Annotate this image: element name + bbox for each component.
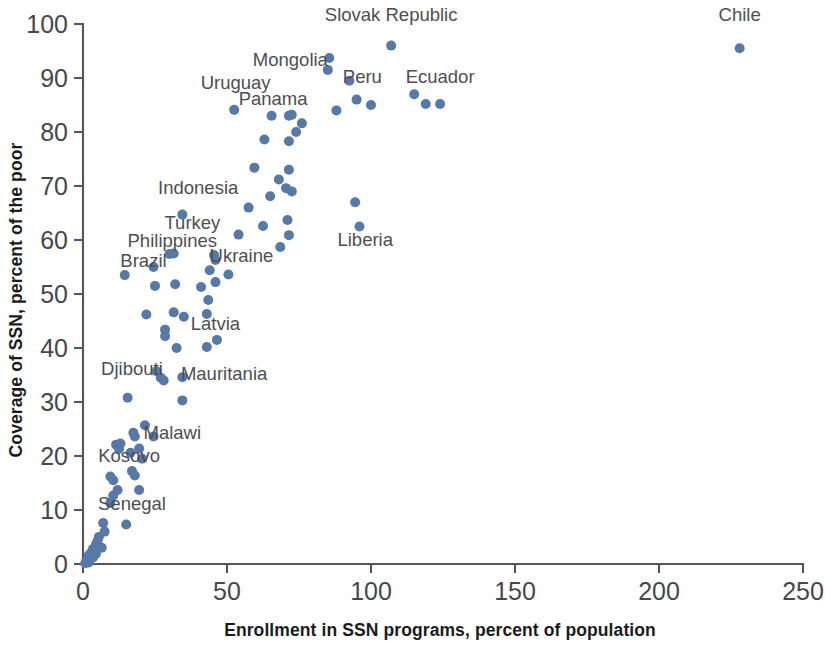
scatter-point <box>282 215 292 225</box>
point-label: Brazil <box>120 250 166 271</box>
x-tick-label: 0 <box>76 577 90 605</box>
scatter-point <box>274 175 284 185</box>
y-axis-title: Coverage of SSN, percent of the poor <box>6 143 26 458</box>
y-tick-label: 10 <box>40 496 68 524</box>
point-label: Philippines <box>128 230 217 251</box>
scatter-point <box>98 518 108 528</box>
y-tick-label: 50 <box>40 280 68 308</box>
x-tick-label: 250 <box>782 577 824 605</box>
scatter-point <box>735 43 745 53</box>
scatter-point <box>141 310 151 320</box>
point-label: Djibouti <box>101 358 163 379</box>
scatter-point <box>435 99 445 109</box>
scatter-point <box>366 100 376 110</box>
x-axis-title: Enrollment in SSN programs, percent of p… <box>224 620 656 640</box>
scatter-point <box>352 95 362 105</box>
y-tick-label: 100 <box>26 10 68 38</box>
scatter-point <box>121 520 131 530</box>
point-label: Kosovo <box>98 445 160 466</box>
point-label: Chile <box>719 4 761 25</box>
y-tick-label: 20 <box>40 442 68 470</box>
scatter-point <box>259 135 269 145</box>
scatter-point <box>203 295 213 305</box>
y-axis-ticks: 0102030405060708090100 <box>26 10 83 578</box>
point-label: Panama <box>239 88 309 109</box>
scatter-point <box>169 307 179 317</box>
x-axis-ticks: 050100150200250 <box>76 564 824 605</box>
point-label: Liberia <box>337 229 393 250</box>
scatter-point <box>386 41 396 51</box>
scatter-point <box>284 230 294 240</box>
x-tick-label: 50 <box>213 577 241 605</box>
scatter-point <box>120 270 130 280</box>
scatter-point <box>205 265 215 275</box>
scatter-point <box>212 335 222 345</box>
point-label: Slovak Republic <box>325 4 458 25</box>
y-tick-label: 70 <box>40 172 68 200</box>
scatter-point <box>172 343 182 353</box>
point-label: Mauritania <box>181 363 268 384</box>
scatter-point <box>177 395 187 405</box>
scatter-point <box>421 99 431 109</box>
scatter-point <box>108 475 118 485</box>
x-tick-label: 150 <box>494 577 536 605</box>
point-label: Senegal <box>98 493 166 514</box>
scatter-point <box>284 165 294 175</box>
point-label: Malawi <box>143 422 201 443</box>
scatter-point <box>409 89 419 99</box>
point-label: Mongolia <box>253 49 329 70</box>
point-label: Ecuador <box>406 66 475 87</box>
scatter-point <box>196 282 206 292</box>
scatter-point <box>210 277 220 287</box>
scatter-point <box>244 203 254 213</box>
scatter-point <box>267 111 277 121</box>
scatter-point <box>223 270 233 280</box>
y-tick-label: 60 <box>40 226 68 254</box>
y-tick-label: 30 <box>40 388 68 416</box>
x-tick-label: 200 <box>638 577 680 605</box>
point-label: Latvia <box>191 313 241 334</box>
scatter-point <box>202 342 212 352</box>
scatter-point <box>297 118 307 128</box>
y-tick-label: 80 <box>40 118 68 146</box>
chart-figure: Coverage of SSN, percent of the poor Enr… <box>0 0 825 645</box>
scatter-point <box>284 136 294 146</box>
y-tick-label: 90 <box>40 64 68 92</box>
y-tick-label: 40 <box>40 334 68 362</box>
scatter-point <box>331 105 341 115</box>
scatter-point <box>291 127 301 137</box>
scatter-point <box>130 432 140 442</box>
point-labels: Slovak RepublicChileMongoliaEcuadorPeruU… <box>98 4 761 514</box>
scatter-plot: Coverage of SSN, percent of the poor Enr… <box>0 0 825 645</box>
scatter-point <box>275 242 285 252</box>
scatter-point <box>287 186 297 196</box>
scatter-point <box>80 558 90 568</box>
scatter-point <box>179 312 189 322</box>
scatter-point <box>123 393 133 403</box>
scatter-point <box>130 470 140 480</box>
scatter-point <box>265 191 275 201</box>
scatter-point <box>150 281 160 291</box>
point-label: Indonesia <box>158 177 239 198</box>
scatter-point <box>258 221 268 231</box>
x-tick-label: 100 <box>350 577 392 605</box>
point-label: Peru <box>343 66 382 87</box>
scatter-point <box>350 197 360 207</box>
scatter-point <box>170 279 180 289</box>
scatter-point <box>160 331 170 341</box>
scatter-point <box>287 110 297 120</box>
y-tick-label: 0 <box>54 550 68 578</box>
scatter-point <box>234 230 244 240</box>
point-label: Ukraine <box>210 245 274 266</box>
data-points <box>80 41 744 569</box>
scatter-point <box>249 163 259 173</box>
